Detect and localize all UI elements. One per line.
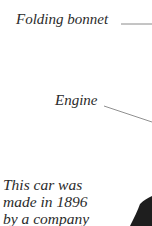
body-paragraph: This car was made in 1896 by a company [3,176,89,226]
label-engine: Engine [55,93,98,108]
engine-leader-line [104,106,152,122]
body-line: This car was [3,176,89,193]
body-line: made in 1896 [3,193,89,210]
label-folding-bonnet: Folding bonnet [16,12,108,27]
body-line: by a company [3,210,89,226]
car-illustration-fragment [130,196,152,226]
